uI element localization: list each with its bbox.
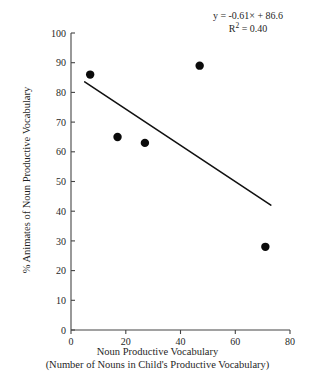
- y-axis-title: % Animates of Noun Productive Vocabulary: [20, 35, 36, 325]
- y-tick-label: 30: [56, 236, 66, 247]
- x-axis-title-line2: (Number of Nouns in Child's Productive V…: [0, 358, 315, 371]
- regression-trend-line: [85, 82, 271, 205]
- scatter-plot-figure: 100 90 80 70 60 50 40 30 20 10 0 0 20 40…: [0, 0, 315, 389]
- y-tick-label: 70: [56, 117, 66, 128]
- y-tick-marks: [71, 33, 75, 330]
- plot-canvas: 100 90 80 70 60 50 40 30 20 10 0 0 20 40…: [0, 0, 315, 389]
- x-axis-title: Noun Productive Vocabulary (Number of No…: [0, 345, 315, 371]
- y-tick-labels: 100 90 80 70 60 50 40 30 20 10 0: [51, 28, 66, 336]
- y-tick-label: 90: [56, 57, 66, 68]
- y-tick-label: 100: [51, 28, 66, 39]
- y-tick-label: 0: [61, 325, 66, 336]
- y-tick-label: 60: [56, 146, 66, 157]
- data-point: [113, 133, 121, 141]
- data-point: [141, 139, 149, 147]
- y-tick-label: 20: [56, 265, 66, 276]
- r-squared-label: R2 = 0.40: [186, 23, 310, 36]
- y-tick-label: 40: [56, 206, 66, 217]
- data-point: [261, 243, 269, 251]
- data-point: [86, 70, 94, 78]
- r-squared-value: = 0.40: [239, 23, 267, 34]
- data-point: [195, 61, 203, 69]
- y-tick-label: 80: [56, 87, 66, 98]
- y-tick-label: 10: [56, 295, 66, 306]
- data-points-group: [86, 61, 270, 251]
- y-tick-label: 50: [56, 176, 66, 187]
- x-axis-title-line1: Noun Productive Vocabulary: [0, 345, 315, 358]
- x-tick-marks: [71, 330, 290, 334]
- regression-equation: y = -0.61× + 86.6: [186, 10, 310, 23]
- regression-annotation: y = -0.61× + 86.6 R2 = 0.40: [186, 10, 310, 35]
